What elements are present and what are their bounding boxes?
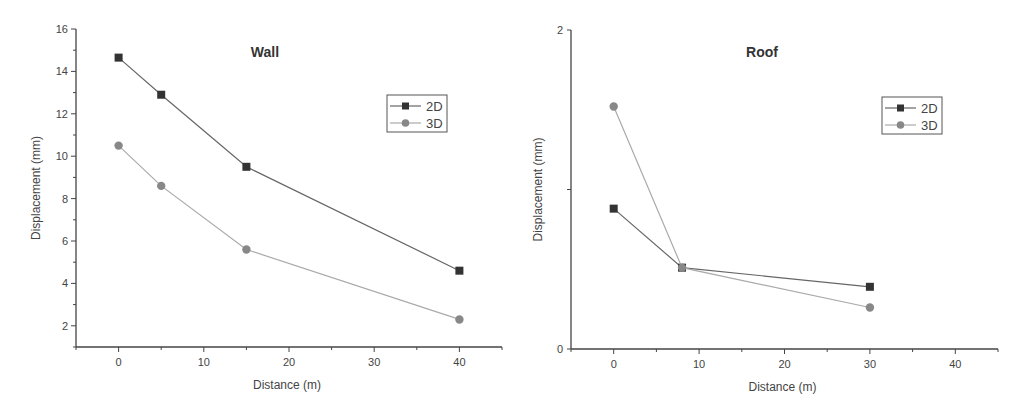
- circle-marker: [678, 263, 686, 271]
- y-tick-label: 12: [56, 108, 68, 120]
- legend-label-3d: 3D: [921, 118, 938, 133]
- x-tick-label: 40: [453, 356, 465, 368]
- series-line-3d: [119, 146, 460, 320]
- square-marker: [157, 91, 165, 99]
- circle-marker: [455, 315, 463, 323]
- y-axis-title: Displacement (mm): [29, 136, 43, 240]
- y-tick-label: 2: [62, 320, 68, 332]
- y-tick-label: 0: [557, 343, 563, 355]
- circle-marker: [610, 102, 618, 110]
- series-line-3d: [614, 107, 870, 308]
- series-line-2d: [614, 209, 870, 287]
- x-tick-label: 20: [283, 356, 295, 368]
- legend-square-icon: [897, 105, 904, 112]
- chart-title: Wall: [251, 44, 279, 60]
- y-tick-label: 10: [56, 150, 68, 162]
- circle-marker: [157, 182, 165, 190]
- legend: 2D3D: [882, 97, 942, 134]
- figure-canvas: 010203040246810121416WallDistance (m)Dis…: [0, 0, 1029, 414]
- square-marker: [455, 267, 463, 275]
- y-axis-title: Displacement (mm): [531, 137, 545, 241]
- x-tick-label: 20: [778, 358, 790, 370]
- x-tick-label: 0: [116, 356, 122, 368]
- y-tick-label: 16: [56, 23, 68, 35]
- series-line-2d: [119, 58, 460, 271]
- x-tick-label: 10: [693, 358, 705, 370]
- legend-square-icon: [402, 103, 409, 110]
- square-marker: [610, 205, 618, 213]
- chart-roof: 01020304002RoofDistance (m)Displacement …: [531, 24, 998, 394]
- x-tick-label: 40: [949, 358, 961, 370]
- legend-label-2d: 2D: [921, 101, 938, 116]
- y-tick-label: 6: [62, 235, 68, 247]
- x-axis-title: Distance (m): [253, 378, 321, 392]
- square-marker: [866, 283, 874, 291]
- circle-marker: [242, 245, 250, 253]
- legend-label-2d: 2D: [426, 99, 443, 114]
- y-tick-label: 8: [62, 193, 68, 205]
- square-marker: [242, 163, 250, 171]
- x-tick-label: 30: [368, 356, 380, 368]
- legend-label-3d: 3D: [426, 116, 443, 131]
- legend-circle-icon: [402, 119, 410, 127]
- x-axis-title: Distance (m): [748, 380, 816, 394]
- legend: 2D3D: [387, 95, 447, 132]
- x-tick-label: 10: [198, 356, 210, 368]
- circle-marker: [866, 303, 874, 311]
- chart-wall: 010203040246810121416WallDistance (m)Dis…: [29, 23, 502, 392]
- x-tick-label: 30: [864, 358, 876, 370]
- circle-marker: [114, 141, 122, 149]
- y-tick-label: 2: [557, 24, 563, 36]
- chart-title: Roof: [746, 44, 778, 60]
- y-tick-label: 4: [62, 277, 68, 289]
- x-tick-label: 0: [611, 358, 617, 370]
- square-marker: [115, 54, 123, 62]
- y-tick-label: 14: [56, 65, 68, 77]
- legend-circle-icon: [897, 121, 905, 129]
